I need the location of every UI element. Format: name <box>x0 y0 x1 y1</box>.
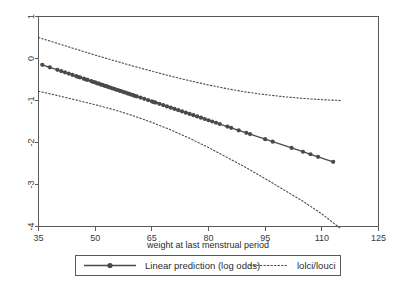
confidence-interval-band <box>39 38 341 229</box>
legend-marker-prediction <box>107 263 112 268</box>
data-point-marker <box>161 103 165 107</box>
data-point-marker <box>316 155 320 159</box>
x-tick-label: 125 <box>371 233 386 243</box>
data-point-marker <box>67 72 71 76</box>
upper-confidence-line <box>39 38 341 101</box>
y-tick-label: -2 <box>26 138 36 146</box>
data-point-marker <box>199 116 203 120</box>
data-point-marker <box>55 68 59 72</box>
prediction-markers <box>40 63 335 164</box>
data-point-marker <box>308 152 312 156</box>
x-tick-label: 110 <box>315 233 329 243</box>
data-point-marker <box>188 112 192 116</box>
y-tick-label: -3 <box>26 180 36 188</box>
y-tick-label: 0 <box>26 56 36 61</box>
data-point-marker <box>229 126 233 130</box>
data-point-marker <box>176 108 180 112</box>
legend-label-confidence: lolci/louci <box>297 260 336 271</box>
data-point-marker <box>86 78 90 82</box>
y-tick-label: -4 <box>26 222 36 230</box>
data-point-marker <box>301 150 305 154</box>
data-point-marker <box>135 94 139 98</box>
data-point-marker <box>138 95 142 99</box>
data-point-marker <box>237 128 241 132</box>
data-point-marker <box>271 140 275 144</box>
x-axis-title: weight at last menstrual period <box>146 240 269 250</box>
y-tick-label: 1 <box>26 14 36 19</box>
chart-figure: 10-1-2-3-4 3550658095110125 weight at la… <box>0 0 418 290</box>
data-point-marker <box>154 101 158 105</box>
x-tick-label: 50 <box>90 233 100 243</box>
data-point-marker <box>59 69 63 73</box>
data-point-marker <box>169 106 173 110</box>
data-point-marker <box>157 102 161 106</box>
data-point-marker <box>290 146 294 150</box>
data-point-marker <box>225 124 229 128</box>
data-point-marker <box>331 160 335 164</box>
data-point-marker <box>263 137 267 141</box>
y-tick-label: -1 <box>26 96 36 104</box>
linear-prediction-chart: 10-1-2-3-4 3550658095110125 weight at la… <box>0 0 418 290</box>
data-point-marker <box>184 111 188 115</box>
data-point-marker <box>191 113 195 117</box>
legend-label-prediction: Linear prediction (log odds) <box>145 260 260 271</box>
data-point-marker <box>244 131 248 135</box>
data-point-marker <box>214 121 218 125</box>
data-point-marker <box>48 65 52 69</box>
data-point-marker <box>142 97 146 101</box>
data-point-marker <box>146 98 150 102</box>
chart-legend: Linear prediction (log odds) lolci/louci <box>76 256 341 276</box>
data-point-marker <box>218 122 222 126</box>
data-point-marker <box>40 63 44 67</box>
data-point-marker <box>195 114 199 118</box>
data-point-marker <box>63 70 67 74</box>
data-point-marker <box>78 75 82 79</box>
data-point-marker <box>180 109 184 113</box>
data-point-marker <box>165 104 169 108</box>
data-point-marker <box>70 73 74 77</box>
prediction-series <box>40 63 335 164</box>
data-point-marker <box>172 107 176 111</box>
data-point-marker <box>203 117 207 121</box>
x-tick-label: 35 <box>33 233 43 243</box>
y-axis: 10-1-2-3-4 <box>26 14 39 231</box>
data-point-marker <box>210 119 214 123</box>
data-point-marker <box>248 132 252 136</box>
data-point-marker <box>206 118 210 122</box>
